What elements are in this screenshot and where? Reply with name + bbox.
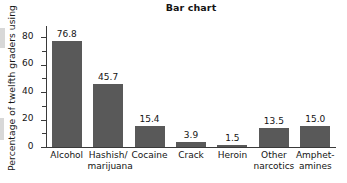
x-tick-label-line: Other [253, 150, 294, 161]
bar-2: 15.4 [135, 126, 165, 147]
x-tick-label-0: Alcohol [46, 150, 87, 161]
chart-title: Bar chart [46, 2, 336, 13]
y-axis-label: Percentage of twelfth graders using [6, 5, 17, 171]
plot-area: 020406080 76.845.715.43.91.513.515.0 [46, 26, 336, 148]
y-tick-80: 80 [41, 37, 47, 38]
bar-value-label-1: 45.7 [98, 72, 118, 82]
bar-value-label-3: 3.9 [184, 130, 198, 140]
y-tick-label-40: 40 [22, 86, 33, 96]
y-tick-minor-70 [42, 51, 47, 52]
y-tick-minor-30 [42, 106, 47, 107]
scan-artifact-bottom [0, 118, 4, 140]
x-axis-line [46, 147, 336, 148]
y-tick-label-0: 0 [28, 141, 34, 151]
x-tick-label-3: Crack [170, 150, 211, 161]
y-tick-0: 0 [41, 147, 47, 148]
x-tick-label-line: Heroin [212, 150, 253, 161]
bar-4: 1.5 [217, 145, 247, 147]
bar-value-label-0: 76.8 [57, 29, 77, 39]
x-tick-label-line: Alcohol [46, 150, 87, 161]
y-axis-label-container: Percentage of twelfth graders using [3, 22, 19, 154]
bar-value-label-6: 15.0 [305, 114, 325, 124]
x-tick-label-line: Cocaine [129, 150, 170, 161]
x-tick-label-line: Hashish/ [87, 150, 128, 161]
bar-chart-figure: Bar chart Percentage of twelfth graders … [0, 0, 347, 183]
bar-6: 15.0 [300, 126, 330, 147]
y-tick-60: 60 [41, 65, 47, 66]
x-tick-label-6: Amphet-amines [295, 150, 336, 171]
bar-value-label-5: 13.5 [264, 116, 284, 126]
bar-value-label-4: 1.5 [225, 133, 239, 143]
bar-value-label-2: 15.4 [140, 114, 160, 124]
bar-5: 13.5 [259, 128, 289, 147]
bar-3: 3.9 [176, 142, 206, 147]
x-tick-label-4: Heroin [212, 150, 253, 161]
x-tick-label-5: Othernarcotics [253, 150, 294, 171]
y-tick-label-60: 60 [22, 58, 33, 68]
x-tick-label-line: marijuana [87, 161, 128, 172]
scan-artifact-top [0, 28, 5, 48]
y-tick-label-80: 80 [22, 31, 33, 41]
y-tick-label-20: 20 [22, 113, 33, 123]
bar-1: 45.7 [93, 84, 123, 147]
y-tick-20: 20 [41, 120, 47, 121]
y-tick-minor-50 [42, 78, 47, 79]
x-tick-label-line: amines [295, 161, 336, 172]
bar-0: 76.8 [52, 41, 82, 147]
x-tick-label-line: Crack [170, 150, 211, 161]
y-axis-line [46, 26, 47, 148]
y-tick-40: 40 [41, 92, 47, 93]
x-tick-label-line: Amphet- [295, 150, 336, 161]
x-tick-label-line: narcotics [253, 161, 294, 172]
x-tick-label-1: Hashish/marijuana [87, 150, 128, 171]
y-tick-minor-10 [42, 133, 47, 134]
x-tick-label-2: Cocaine [129, 150, 170, 161]
